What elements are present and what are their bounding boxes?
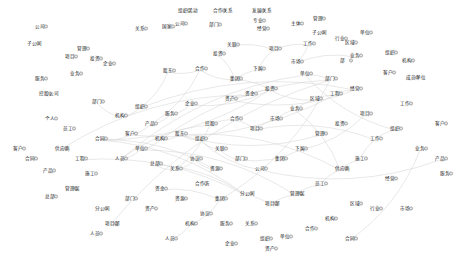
graph-node[interactable]: 国家 <box>162 23 175 30</box>
graph-node[interactable]: 区域 <box>310 95 323 101</box>
graph-node[interactable]: 投资 <box>213 50 226 57</box>
graph-node[interactable]: 资产 <box>145 205 158 212</box>
graph-node[interactable]: 组织 <box>260 235 273 242</box>
graph-node[interactable]: 组织活动 <box>178 7 198 14</box>
graph-node[interactable]: 成员单位 <box>406 74 426 81</box>
graph-node[interactable]: 合作 <box>230 115 243 122</box>
graph-node[interactable]: 子公司 <box>312 29 327 35</box>
graph-node[interactable]: 单位 <box>280 233 293 240</box>
graph-node[interactable]: 专业 <box>253 17 266 24</box>
graph-node[interactable]: 总部 <box>150 160 163 167</box>
graph-node[interactable]: 服务 <box>220 220 233 227</box>
graph-node[interactable]: 下属 <box>253 66 266 72</box>
graph-node[interactable]: 单位 <box>135 145 148 152</box>
graph-node[interactable]: 股东 <box>175 130 188 137</box>
graph-node[interactable]: 投资 <box>90 55 103 62</box>
graph-node[interactable]: 施工 <box>85 170 98 177</box>
graph-node[interactable]: 项目 <box>65 54 78 60</box>
graph-node[interactable]: 市场 <box>270 115 283 122</box>
graph-node[interactable]: 工程 <box>75 155 88 162</box>
graph-node[interactable]: 组织 <box>135 103 148 110</box>
graph-node[interactable]: 单位 <box>300 70 313 77</box>
graph-node[interactable]: 关系 <box>135 25 148 32</box>
graph-node[interactable]: 管理 <box>77 45 90 52</box>
graph-node[interactable]: 项目 <box>269 46 282 52</box>
graph-node[interactable]: 客户 <box>125 130 138 137</box>
graph-node[interactable]: 总部 <box>45 193 58 200</box>
graph-node[interactable]: 项目部 <box>105 220 120 227</box>
graph-node[interactable]: 公司 <box>175 21 188 26</box>
graph-node[interactable]: 公司 <box>35 24 48 29</box>
graph-node[interactable]: 个人 <box>45 116 58 121</box>
graph-node[interactable]: 工程 <box>330 90 343 97</box>
graph-node[interactable]: 控股公司 <box>39 90 59 97</box>
graph-node[interactable]: 经营 <box>350 85 363 92</box>
graph-node[interactable]: 机构 <box>325 215 338 222</box>
graph-node[interactable]: 资金 <box>155 185 168 192</box>
graph-node[interactable]: 合同 <box>25 155 38 162</box>
graph-node[interactable]: 机构 <box>115 112 128 119</box>
graph-node[interactable]: 项目 <box>250 126 263 132</box>
graph-node[interactable]: 资产 <box>265 245 278 252</box>
graph-node[interactable]: 组织 <box>390 125 403 132</box>
graph-node[interactable]: 合作 <box>305 225 318 232</box>
graph-node[interactable]: 机构 <box>185 220 198 227</box>
graph-node[interactable]: 业务 <box>350 52 363 59</box>
graph-node[interactable]: 服务 <box>35 75 48 82</box>
graph-node[interactable]: 产品 <box>43 167 56 174</box>
graph-node[interactable]: 服务 <box>440 170 453 177</box>
graph-node[interactable]: 人员 <box>90 231 103 237</box>
graph-node[interactable]: 管理 <box>315 130 328 137</box>
graph-node[interactable]: 关系 <box>170 165 183 172</box>
graph-node[interactable]: 项目部 <box>265 200 280 207</box>
graph-node[interactable]: 业务 <box>70 70 83 77</box>
graph-node[interactable]: 区域 <box>350 200 363 206</box>
graph-node[interactable]: 资金 <box>245 90 258 97</box>
graph-node[interactable]: 子公司 <box>27 40 42 46</box>
graph-node[interactable]: 工作 <box>400 100 413 107</box>
graph-node[interactable]: 供应商 <box>335 165 350 172</box>
graph-node[interactable]: 合作方 <box>195 180 210 187</box>
graph-node[interactable]: 区域 <box>345 39 358 45</box>
graph-node[interactable]: 经营 <box>257 25 270 32</box>
graph-node[interactable]: 关联 <box>215 145 228 152</box>
graph-node[interactable]: 产品 <box>435 155 448 162</box>
graph-node[interactable]: 施工 <box>355 155 368 162</box>
node-circle[interactable] <box>349 59 352 62</box>
graph-node[interactable]: 管理层 <box>65 185 80 192</box>
graph-node[interactable]: 控股 <box>205 120 218 127</box>
graph-node[interactable]: 市场 <box>400 205 413 212</box>
graph-node[interactable]: 关联 <box>227 41 240 48</box>
graph-node[interactable]: 企业 <box>103 60 116 66</box>
graph-node[interactable]: 工作 <box>303 40 316 47</box>
graph-node[interactable]: 供应商 <box>55 145 70 152</box>
graph-node[interactable]: 发展关系 <box>252 7 272 14</box>
graph-node[interactable]: 人员 <box>165 236 178 242</box>
graph-node[interactable]: 资源 <box>175 195 188 202</box>
graph-node[interactable]: 行业 <box>370 205 383 212</box>
graph-node[interactable]: 服务 <box>165 110 178 117</box>
graph-node[interactable]: 工作 <box>370 135 383 142</box>
graph-node[interactable]: 客户 <box>383 69 396 76</box>
graph-node[interactable]: 企业 <box>225 240 238 246</box>
graph-node[interactable]: 资源 <box>210 165 223 172</box>
graph-node[interactable]: 企业 <box>185 100 198 106</box>
graph-node[interactable]: 市场 <box>291 58 304 65</box>
graph-node[interactable]: 组织 <box>385 49 398 56</box>
graph-node[interactable]: 管理 <box>313 15 326 22</box>
graph-node[interactable]: 员工 <box>315 181 328 187</box>
graph-node[interactable]: 机构 <box>402 57 415 64</box>
graph-node[interactable]: 合同 <box>95 135 108 142</box>
graph-node[interactable]: 分公司 <box>240 190 255 197</box>
graph-node[interactable]: 下属 <box>295 146 308 152</box>
graph-node[interactable]: 客户 <box>13 145 26 152</box>
graph-node[interactable]: 部门 <box>325 75 338 82</box>
graph-node[interactable]: 管理层 <box>290 190 305 197</box>
graph-node[interactable]: 部门 <box>235 155 248 162</box>
graph-node[interactable]: 公司 <box>255 166 268 171</box>
graph-node[interactable]: 客户 <box>435 120 448 127</box>
graph-node[interactable]: 项目 <box>360 111 373 117</box>
graph-node[interactable]: 业务 <box>415 145 428 152</box>
graph-node[interactable]: 部门 <box>92 98 105 105</box>
graph-node[interactable]: 集团 <box>215 195 228 202</box>
